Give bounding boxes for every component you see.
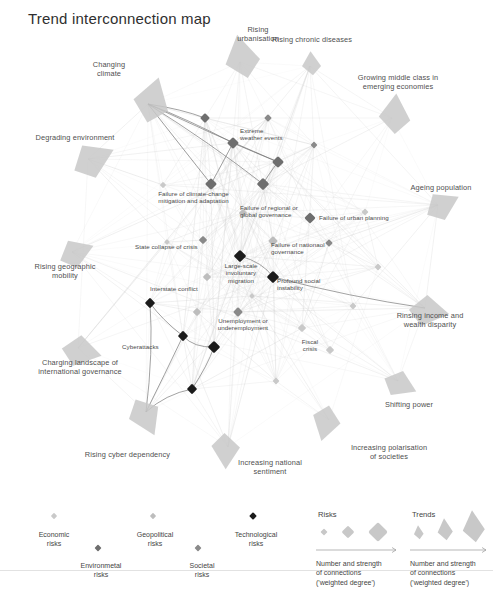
legend-trend-size-marker (438, 518, 453, 540)
risk-node (187, 384, 198, 395)
trend-label: Increasing polarisation of societies (329, 443, 449, 461)
trend-label: Charging landscape of international gove… (18, 358, 142, 376)
trend-label: Increasing national sentiment (222, 458, 318, 476)
trend-label: Rising geographic mobility (20, 262, 110, 280)
trend-label: Rising cyber dependency (70, 450, 185, 459)
risk-node (208, 341, 221, 354)
trend-label: Growing middle class in emerging economi… (333, 73, 463, 91)
legend-trend-size-marker (463, 510, 485, 542)
legend-category-marker (249, 512, 257, 520)
legend-risk-size-marker (320, 528, 327, 535)
trend-shape (302, 51, 322, 76)
trend-shape (376, 91, 414, 136)
legend-risk-size-marker (342, 526, 355, 539)
trend-label: Degrading environment (20, 133, 130, 142)
trend-shape (124, 393, 167, 441)
trend-interconnection-map: Trend interconnection map Changing clima… (0, 0, 493, 603)
legend-category-marker (150, 513, 156, 519)
legend-trend-size-marker (414, 525, 424, 539)
risk-label: Failure of climate-change mitigation and… (141, 190, 246, 205)
risk-label: Cyberattacks (122, 343, 188, 350)
legend-category-label: Economic risks (10, 530, 98, 549)
legend-scale-heading: Risks (318, 510, 337, 519)
trend-label: Rising chronic diseases (252, 35, 372, 44)
risk-label: Unemployment or underemployment (206, 317, 280, 332)
legend-category-label: Geopolitical risks (111, 530, 199, 549)
legend: Economic risksEnvironmetal risksGeopolit… (0, 492, 493, 603)
legend-risk-size-marker (368, 522, 388, 542)
legend-category-label: Environmetal risks (57, 561, 145, 580)
legend-scale-caption: Number and strength of connections ('wei… (316, 559, 408, 587)
trend-shape (306, 401, 345, 445)
legend-scale-arrow (316, 548, 396, 553)
risk-node (203, 273, 211, 281)
risk-label: Large-scale involuntary migration (215, 262, 267, 284)
risk-label: Interstate conflict (150, 285, 216, 292)
legend-scale-heading: Trends (412, 510, 435, 519)
risk-label: Failure of urban planning (319, 214, 405, 221)
legend-scale-arrow (410, 548, 486, 553)
risk-label: State collapse of crisis (135, 243, 217, 250)
legend-category-label: Technological risks (212, 530, 300, 549)
risk-label: Fiscal crisis (290, 338, 330, 353)
trend-label: Changing climate (74, 60, 144, 78)
risk-label: Extreme weather events (240, 127, 310, 142)
trend-label: Rinsing income and wealth disparity (374, 311, 486, 329)
trend-label: Shifting power (369, 400, 449, 409)
legend-scale-caption: Number and strength of connections ('wei… (410, 559, 493, 587)
legend-category-marker (51, 513, 57, 519)
legend-category-label: Societal risks (158, 561, 246, 580)
risk-label: Profound social instability (277, 277, 341, 292)
risk-label: Failure of regional or global governance (240, 204, 310, 219)
trend-label: Ageing population (396, 183, 486, 192)
risk-label: Failure of nationaol governance (271, 241, 333, 256)
